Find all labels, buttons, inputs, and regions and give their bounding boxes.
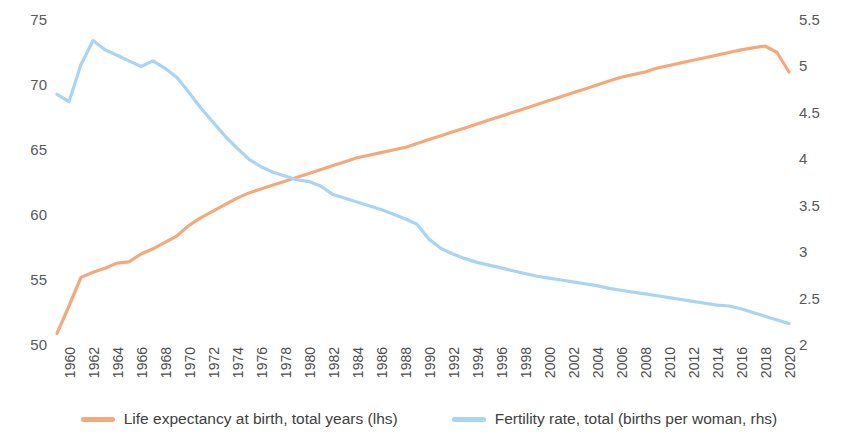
x-tick-label: 1968: [159, 347, 173, 378]
y-tick-label-right: 4: [799, 151, 807, 166]
x-tick-label: 1994: [471, 347, 485, 378]
x-tick-label: 1964: [111, 347, 125, 378]
x-tick-label: 2000: [543, 347, 557, 378]
x-tick-label: 1996: [495, 347, 509, 378]
plot-area: [57, 20, 789, 345]
y-tick-label-right: 5: [799, 58, 807, 73]
x-tick-label: 2004: [591, 347, 605, 378]
x-tick-label: 2010: [663, 347, 677, 378]
y-tick-label-right: 3: [799, 244, 807, 259]
y-tick-label-right: 3.5: [799, 198, 820, 213]
y-tick-label-right: 2.5: [799, 291, 820, 306]
x-tick-label: 1982: [327, 347, 341, 378]
legend-item-life-expectancy[interactable]: Life expectancy at birth, total years (l…: [81, 411, 398, 427]
x-tick-label: 1970: [183, 347, 197, 378]
x-tick-label: 1986: [375, 347, 389, 378]
x-tick-label: 2006: [615, 347, 629, 378]
x-tick-label: 2014: [711, 347, 725, 378]
plot-svg: [57, 20, 789, 345]
y-tick-label-left: 55: [30, 272, 47, 287]
x-tick-label: 1990: [423, 347, 437, 378]
y-tick-label-right: 4.5: [799, 105, 820, 120]
x-tick-label: 1966: [135, 347, 149, 378]
x-tick-label: 1962: [87, 347, 101, 378]
x-tick-label: 1988: [399, 347, 413, 378]
x-tick-label: 1984: [351, 347, 365, 378]
x-tick-label: 2016: [735, 347, 749, 378]
legend-item-fertility-rate[interactable]: Fertility rate, total (births per woman,…: [452, 411, 778, 427]
legend-swatch-icon: [452, 417, 486, 422]
x-tick-label: 1972: [207, 347, 221, 378]
x-tick-label: 2018: [759, 347, 773, 378]
x-tick-label: 1980: [303, 347, 317, 378]
series-line-life-expectancy: [57, 46, 789, 333]
x-tick-label: 1978: [279, 347, 293, 378]
y-tick-label-left: 50: [30, 337, 47, 352]
y-tick-label-left: 65: [30, 142, 47, 157]
x-tick-label: 2012: [687, 347, 701, 378]
chart-legend: Life expectancy at birth, total years (l…: [0, 404, 858, 434]
series-paths: [57, 40, 789, 333]
y-tick-label-right: 2: [799, 337, 807, 352]
x-tick-label: 1976: [255, 347, 269, 378]
x-tick-label: 1998: [519, 347, 533, 378]
y-tick-label-left: 75: [30, 12, 47, 27]
legend-label: Life expectancy at birth, total years (l…: [124, 411, 398, 427]
legend-swatch-icon: [81, 417, 115, 422]
y-tick-label-right: 5.5: [799, 12, 820, 27]
x-tick-label: 1992: [447, 347, 461, 378]
x-tick-label: 2008: [639, 347, 653, 378]
x-tick-label: 1960: [63, 347, 77, 378]
series-line-fertility-rate: [57, 40, 789, 323]
x-tick-label: 1974: [231, 347, 245, 378]
y-tick-label-left: 60: [30, 207, 47, 222]
y-axis-right: 22.533.544.555.5: [795, 20, 841, 345]
y-tick-label-left: 70: [30, 77, 47, 92]
chart-container: 505560657075 22.533.544.555.5 1960196219…: [0, 0, 858, 444]
y-axis-left: 505560657075: [5, 20, 51, 345]
x-tick-label: 2002: [567, 347, 581, 378]
x-tick-label: 2020: [783, 347, 797, 378]
x-axis: 1960196219641966196819701972197419761978…: [57, 347, 789, 403]
legend-label: Fertility rate, total (births per woman,…: [495, 411, 778, 427]
